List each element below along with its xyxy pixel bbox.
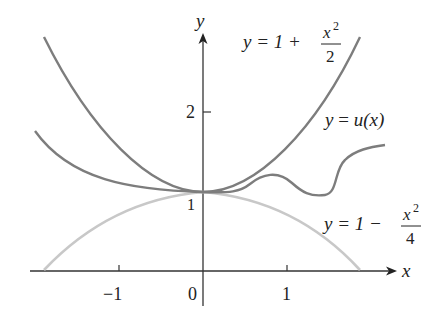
label-lower-exponent: 2 [413, 201, 419, 215]
label-upper-denominator: 2 [326, 47, 335, 66]
y-tick-label-1: 1 [187, 196, 195, 213]
y-axis-label: y [194, 10, 205, 31]
label-upper-prefix: y = 1 + [241, 31, 301, 52]
x-tick-label-0: 0 [188, 284, 197, 304]
figure-diagram: x y −1 0 1 2 1 y = 1 + x 2 2 y = u(x) y … [0, 0, 444, 326]
curve-u-of-x [35, 131, 385, 195]
x-axis-label: x [401, 260, 411, 281]
label-upper-curve: y = 1 + x 2 2 [241, 19, 341, 66]
label-upper-numerator: x [322, 23, 331, 42]
x-tick-label-1: 1 [282, 284, 291, 304]
x-tick-label-neg1: −1 [103, 284, 122, 304]
label-lower-numerator: x [402, 205, 411, 224]
y-tick-label-2: 2 [186, 102, 195, 122]
curve-upper-bound [44, 37, 360, 192]
svg-text:y = 1 −: y = 1 − [322, 213, 382, 234]
label-lower-curve: y = 1 − x 2 4 [322, 201, 421, 248]
label-lower-prefix: y = 1 − [322, 213, 382, 234]
label-upper-exponent: 2 [333, 19, 339, 33]
label-middle-curve: y = u(x) [323, 109, 384, 131]
label-lower-denominator: 4 [406, 229, 415, 248]
curve-lower-bound [44, 192, 360, 270]
svg-text:y = 1 +: y = 1 + [241, 31, 301, 52]
